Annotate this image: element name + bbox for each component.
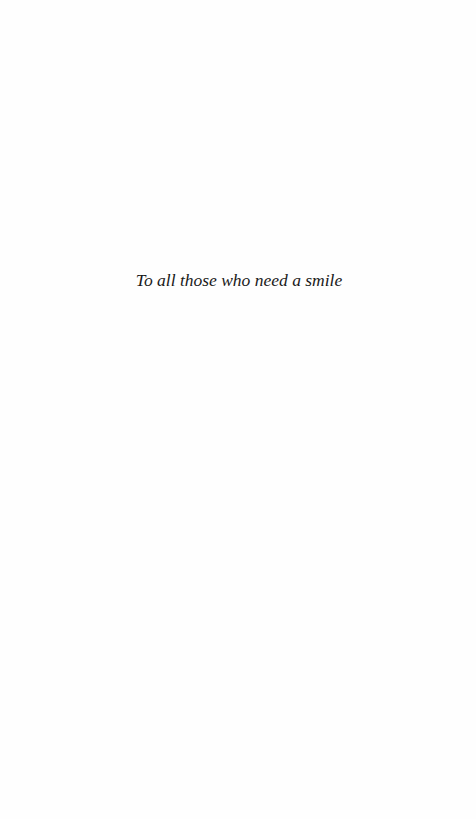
dedication-text: To all those who need a smile <box>0 268 476 292</box>
book-page: To all those who need a smile <box>0 0 476 819</box>
